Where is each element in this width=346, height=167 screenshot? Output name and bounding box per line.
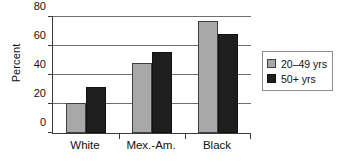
x-axis-label: White bbox=[70, 139, 99, 151]
legend-item: 50+ yrs bbox=[267, 71, 327, 86]
bar bbox=[66, 103, 86, 133]
bar bbox=[86, 87, 106, 133]
y-tick-label: 80 bbox=[34, 0, 46, 12]
y-tick bbox=[48, 103, 53, 104]
legend-item: 20–49 yrs bbox=[267, 56, 327, 71]
bar bbox=[198, 21, 218, 133]
y-tick bbox=[48, 132, 53, 133]
x-axis-label: Black bbox=[203, 139, 231, 151]
x-tick bbox=[119, 133, 120, 139]
x-axis-label: Mex.-Am. bbox=[126, 139, 175, 151]
x-tick bbox=[250, 133, 251, 139]
legend-swatch-black bbox=[267, 74, 276, 83]
y-tick-label: 0 bbox=[40, 116, 46, 128]
bar bbox=[152, 52, 172, 133]
y-tick bbox=[48, 16, 53, 17]
y-tick-label: 40 bbox=[34, 58, 46, 70]
legend-item-label: 50+ yrs bbox=[281, 73, 316, 85]
legend-item-label: 20–49 yrs bbox=[281, 58, 327, 70]
bar-chart-figure: Percent 020406080 WhiteMex.-Am.Black 20–… bbox=[0, 0, 346, 167]
y-tick-label: 20 bbox=[34, 87, 46, 99]
legend-swatch-gray bbox=[267, 59, 276, 68]
chart-legend: 20–49 yrs50+ yrs bbox=[262, 51, 333, 91]
plot-top-gridline bbox=[53, 16, 251, 17]
y-tick bbox=[48, 74, 53, 75]
x-tick bbox=[185, 133, 186, 139]
bar bbox=[218, 34, 238, 133]
y-tick-label: 60 bbox=[34, 29, 46, 41]
y-tick bbox=[48, 45, 53, 46]
bar bbox=[132, 63, 152, 133]
y-axis-title: Percent bbox=[10, 18, 24, 108]
plot-area: 020406080 bbox=[52, 17, 251, 134]
